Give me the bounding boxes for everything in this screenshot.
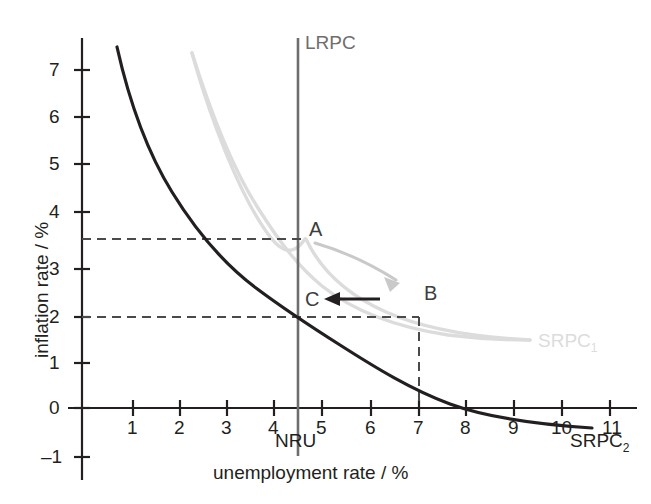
y-tick-label-neg1: –1 xyxy=(41,447,62,466)
curved-arrow-a-to-b xyxy=(315,243,400,292)
y-tick-label-4: 4 xyxy=(49,202,60,221)
lrpc-label: LRPC xyxy=(305,33,356,52)
y-tick-label-5: 5 xyxy=(49,154,60,173)
srpc2-label-subscript: 2 xyxy=(623,441,630,455)
x-tick-label-7: 7 xyxy=(413,418,424,437)
y-tick-label-0: 0 xyxy=(49,398,60,417)
y-axis-title: inflation rate / % xyxy=(32,222,51,358)
x-tick-label-3: 3 xyxy=(221,418,232,437)
srpc1-label-subscript: 1 xyxy=(591,341,598,355)
x-tick-label-1: 1 xyxy=(127,418,138,437)
nru-label: NRU xyxy=(275,431,316,450)
x-tick-label-2: 2 xyxy=(174,418,185,437)
srpc2-curve xyxy=(117,47,592,428)
srpc2-label: SRPC2 xyxy=(570,431,629,454)
point-label-c: C xyxy=(305,289,319,309)
x-tick-label-9: 9 xyxy=(508,418,519,437)
point-label-a: A xyxy=(309,219,322,239)
y-tick-label-7: 7 xyxy=(49,60,60,79)
x-tick-label-10: 10 xyxy=(551,418,572,437)
srpc2-label-text: SRPC xyxy=(570,430,623,451)
x-tick-label-6: 6 xyxy=(365,418,376,437)
axis-lines xyxy=(68,38,637,480)
srpc1-label-text: SRPC xyxy=(538,330,591,351)
x-tick-label-8: 8 xyxy=(460,418,471,437)
srpc1-label: SRPC1 xyxy=(538,331,597,354)
srpc1-curve xyxy=(192,53,530,340)
y-tick-label-6: 6 xyxy=(49,107,60,126)
phillips-curve-figure: 7 6 5 4 3 2 1 0 –1 1 2 3 4 5 6 7 8 9 10 … xyxy=(0,0,651,504)
x-axis-title: unemployment rate / % xyxy=(213,463,408,482)
point-label-b: B xyxy=(424,283,437,303)
x-tick-label-5: 5 xyxy=(316,418,327,437)
